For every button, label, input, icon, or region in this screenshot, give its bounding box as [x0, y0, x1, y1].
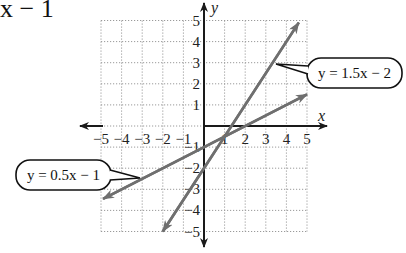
plotted-lines [103, 23, 307, 232]
y-tick-label: 3 [193, 55, 201, 71]
callout-equation-text: y = 1.5x − 2 [318, 65, 391, 81]
x-tick-label: 2 [241, 131, 249, 147]
x-tick-label: −3 [134, 131, 150, 147]
y-tick-label: 4 [193, 34, 201, 50]
y-tick-label: −2 [184, 160, 200, 176]
x-tick-label: 4 [283, 131, 291, 147]
x-axis-label: x [317, 107, 325, 124]
equation-callouts: y = 1.5x − 2y = 0.5x − 1 [16, 58, 402, 190]
callout-equation-text: y = 0.5x − 1 [27, 167, 100, 183]
x-tick-label: 3 [262, 131, 270, 147]
y-tick-label: 2 [193, 76, 201, 92]
x-tick-label: 5 [303, 131, 311, 147]
x-tick-label: −2 [155, 131, 171, 147]
y-tick-label: 5 [193, 13, 201, 29]
y-axis-label: y [209, 0, 219, 17]
y-tick-label: −5 [184, 224, 200, 240]
coordinate-plane-chart: xy −5−4−3−2−11234554321−1−2−3−4−5 y = 1.… [0, 0, 406, 253]
y-tick-label: 1 [193, 97, 201, 113]
x-tick-label: −4 [114, 131, 130, 147]
x-tick-label: −5 [93, 131, 109, 147]
equation-callout: y = 1.5x − 2 [276, 58, 402, 88]
y-tick-label: −4 [184, 202, 200, 218]
